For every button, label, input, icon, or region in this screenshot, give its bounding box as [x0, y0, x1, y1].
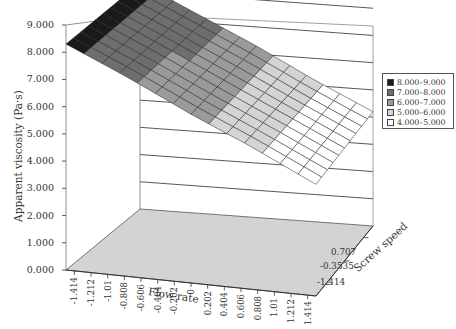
legend-label: 6.000–7.000 — [397, 98, 446, 107]
x-tick-label: 0.202 — [203, 291, 213, 325]
viscosity-surface — [66, 0, 373, 184]
z-tick-label: -0.3535 — [320, 261, 354, 271]
legend-label: 8.000–9.000 — [397, 78, 446, 87]
legend-item: 4.000–5.000 — [387, 117, 450, 127]
y-tick-label: 9.000 — [4, 20, 54, 30]
legend-label: 4.000–5.000 — [397, 118, 446, 127]
x-tick-label: 1.01 — [269, 298, 279, 329]
y-axis-label: Apparent viscosity (Pa·s) — [12, 86, 24, 226]
x-tick-label: 0.808 — [253, 296, 263, 329]
x-tick-label: 1.414 — [303, 301, 313, 329]
legend-swatch — [387, 109, 394, 116]
y-tick-label: 7.000 — [4, 74, 54, 84]
x-tick-label: 0.404 — [219, 292, 229, 326]
x-tick-label: -1.01 — [103, 280, 113, 314]
legend-swatch — [387, 79, 394, 86]
legend-swatch — [387, 119, 394, 126]
y-tick-label: 8.000 — [4, 47, 54, 57]
x-tick-label: -0.808 — [119, 282, 129, 316]
legend-item: 5.000–6.000 — [387, 107, 450, 117]
y-tick-label: 1.000 — [4, 238, 54, 248]
x-tick-label: -1.414 — [69, 277, 79, 311]
y-axis-ticks — [62, 25, 66, 270]
x-tick-label: -0.606 — [136, 284, 146, 318]
z-tick-label: -1.414 — [317, 277, 345, 287]
legend-swatch — [387, 99, 394, 106]
z-tick-label: 0.707 — [331, 247, 356, 257]
legend-item: 6.000–7.000 — [387, 97, 450, 107]
y-tick-label: 0.000 — [4, 265, 54, 275]
x-tick-label: -1.212 — [86, 279, 96, 313]
legend-label: 5.000–6.000 — [397, 108, 446, 117]
x-tick-label: 0.606 — [236, 294, 246, 328]
x-tick-label: 1.212 — [286, 299, 296, 329]
legend-label: 7.000–8.000 — [397, 88, 446, 97]
legend-item: 7.000–8.000 — [387, 87, 450, 97]
legend-swatch — [387, 89, 394, 96]
legend-item: 8.000–9.000 — [387, 77, 450, 87]
legend: 8.000–9.000 7.000–8.000 6.000–7.000 5.00… — [382, 73, 454, 129]
